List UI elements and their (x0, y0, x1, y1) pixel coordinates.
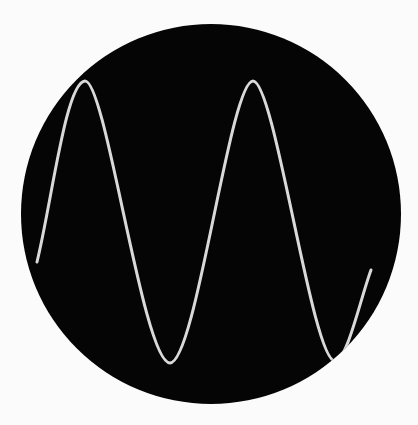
oscilloscope-display (0, 0, 418, 425)
oscilloscope-screen (21, 24, 401, 404)
